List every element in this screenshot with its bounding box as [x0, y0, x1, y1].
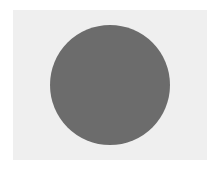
gray-panel	[13, 10, 207, 160]
gray-circle	[50, 25, 170, 145]
